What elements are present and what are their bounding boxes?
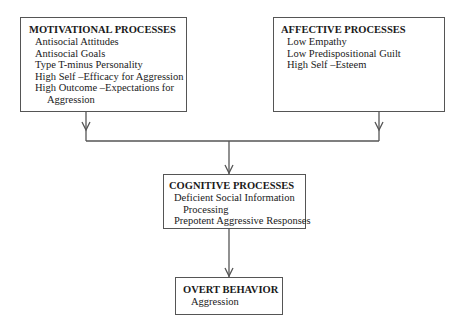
cognitive-processes-title: COGNITIVE PROCESSES xyxy=(169,180,305,192)
affective-processes-box: AFFECTIVE PROCESSES Low Empathy Low Pred… xyxy=(273,17,445,112)
motivational-processes-title: MOTIVATIONAL PROCESSES xyxy=(29,24,186,36)
motivational-item: Aggression xyxy=(29,94,186,106)
affective-item: Low Predispositional Guilt xyxy=(281,48,444,60)
motivational-item: Antisocial Attitudes xyxy=(29,36,186,48)
motivational-item: High Self –Efficacy for Aggression xyxy=(29,71,186,83)
motivational-item: High Outcome –Expectations for xyxy=(29,82,186,94)
cognitive-item: Deficient Social Information xyxy=(169,192,305,204)
overt-behavior-title: OVERT BEHAVIOR xyxy=(183,284,282,296)
cognitive-item: Processing xyxy=(169,204,305,216)
motivational-processes-box: MOTIVATIONAL PROCESSES Antisocial Attitu… xyxy=(20,17,187,112)
overt-item: Aggression xyxy=(183,296,282,308)
affective-item: High Self –Esteem xyxy=(281,59,444,71)
affective-item: Low Empathy xyxy=(281,36,444,48)
cognitive-processes-box: COGNITIVE PROCESSES Deficient Social Inf… xyxy=(163,174,306,229)
overt-behavior-box: OVERT BEHAVIOR Aggression xyxy=(175,277,283,315)
cognitive-item: Prepotent Aggressive Responses xyxy=(169,215,305,227)
motivational-item: Antisocial Goals xyxy=(29,48,186,60)
affective-processes-title: AFFECTIVE PROCESSES xyxy=(281,24,444,36)
motivational-item: Type T-minus Personality xyxy=(29,59,186,71)
